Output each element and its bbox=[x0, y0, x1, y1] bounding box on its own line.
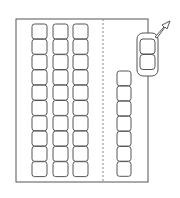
parking-space bbox=[73, 24, 88, 39]
parking-space bbox=[73, 162, 88, 177]
parking-space bbox=[32, 24, 47, 39]
parking-space bbox=[53, 70, 68, 85]
exit-arrow-icon bbox=[155, 21, 170, 38]
parking-space bbox=[117, 162, 131, 177]
parking-space bbox=[53, 85, 68, 100]
parking-space bbox=[117, 131, 131, 146]
parking-space bbox=[73, 146, 88, 161]
parking-space bbox=[73, 131, 88, 146]
parking-lot-svg bbox=[0, 0, 180, 198]
parking-space bbox=[53, 146, 68, 161]
parking-space bbox=[32, 146, 47, 161]
parking-space bbox=[32, 116, 47, 131]
parking-space bbox=[73, 101, 88, 116]
parking-space bbox=[53, 39, 68, 54]
parking-space bbox=[32, 162, 47, 177]
parking-space bbox=[117, 116, 131, 131]
parking-space bbox=[32, 131, 47, 146]
parking-space bbox=[32, 39, 47, 54]
parking-space bbox=[32, 70, 47, 85]
parking-space bbox=[53, 116, 68, 131]
parking-space bbox=[53, 131, 68, 146]
parking-space bbox=[117, 101, 131, 116]
parking-space bbox=[32, 101, 47, 116]
parking-space bbox=[117, 71, 131, 86]
parking-space bbox=[53, 24, 68, 39]
car-segment bbox=[140, 39, 155, 54]
parking-space bbox=[73, 116, 88, 131]
parking-space bbox=[53, 101, 68, 116]
parking-space bbox=[53, 162, 68, 177]
parking-space bbox=[73, 55, 88, 70]
parking-space bbox=[117, 147, 131, 162]
parking-space bbox=[117, 86, 131, 101]
parking-space bbox=[73, 85, 88, 100]
parking-space bbox=[32, 85, 47, 100]
parking-space bbox=[73, 70, 88, 85]
parking-space bbox=[32, 55, 47, 70]
parking-space bbox=[53, 55, 68, 70]
car-segment bbox=[140, 55, 155, 70]
parking-space bbox=[73, 39, 88, 54]
